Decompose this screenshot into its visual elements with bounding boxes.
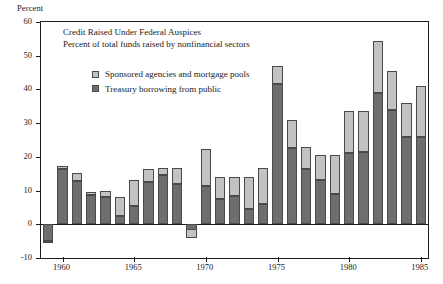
bar-segment-treasury	[172, 184, 182, 224]
y-axis-tick	[36, 258, 41, 259]
y-axis-tick-label: 30	[6, 118, 32, 127]
bar-segment-treasury	[258, 204, 268, 224]
bar-segment-treasury	[287, 148, 297, 224]
legend-swatch-icon-sponsored	[92, 71, 99, 78]
y-axis-tick-label: -10	[6, 253, 32, 262]
y-axis-unit-label: Percent	[17, 3, 43, 13]
legend-label-treasury: Treasury borrowing from public	[105, 82, 221, 97]
bar-group	[43, 22, 53, 258]
y-axis-tick-label: 10	[6, 186, 32, 195]
y-axis-tick	[36, 56, 41, 57]
x-axis-tick-label: 1960	[42, 263, 82, 272]
bar-segment-treasury	[129, 206, 139, 225]
plot-area	[41, 22, 428, 258]
bar-group	[258, 22, 268, 258]
bar-group	[86, 22, 96, 258]
bar-group	[201, 22, 211, 258]
y-axis-tick	[36, 22, 41, 23]
bar-segment-sponsored	[373, 41, 383, 93]
bar-segment-sponsored	[186, 229, 196, 237]
bar-segment-treasury	[143, 182, 153, 224]
bar-group	[287, 22, 297, 258]
chart-legend: Sponsored agencies and mortgage pools Tr…	[92, 67, 249, 96]
bar-group	[387, 22, 397, 258]
bar-segment-treasury	[57, 169, 67, 225]
y-axis-tick	[36, 191, 41, 192]
bar-segment-sponsored	[258, 168, 268, 204]
bar-group	[57, 22, 67, 258]
bar-segment-treasury	[115, 216, 125, 224]
bar-segment-treasury	[301, 169, 311, 225]
y-axis-tick-label: 20	[6, 152, 32, 161]
bar-segment-treasury	[43, 224, 53, 241]
bar-group	[100, 22, 110, 258]
bar-group	[72, 22, 82, 258]
bar-segment-treasury	[330, 194, 340, 224]
bar-group	[272, 22, 282, 258]
bar-segment-sponsored	[401, 103, 411, 137]
bar-group	[215, 22, 225, 258]
legend-label-sponsored: Sponsored agencies and mortgage pools	[105, 67, 249, 82]
legend-item-treasury: Treasury borrowing from public	[92, 82, 249, 97]
bar-segment-treasury	[387, 110, 397, 225]
bar-group	[373, 22, 383, 258]
bar-segment-sponsored	[215, 177, 225, 199]
bar-segment-treasury	[272, 84, 282, 224]
bar-segment-treasury	[86, 195, 96, 225]
bar-segment-treasury	[373, 93, 383, 224]
bar-group	[330, 22, 340, 258]
bar-segment-sponsored	[143, 169, 153, 182]
bar-segment-treasury	[244, 209, 254, 224]
bar-group	[301, 22, 311, 258]
legend-swatch-icon-treasury	[92, 85, 99, 92]
bar-segment-sponsored	[100, 191, 110, 197]
chart-title-block: Credit Raised Under Federal Auspices Per…	[63, 27, 250, 50]
bar-segment-sponsored	[43, 241, 53, 243]
x-axis-tick-label: 1985	[400, 263, 440, 272]
bar-group	[401, 22, 411, 258]
bar-segment-treasury	[215, 199, 225, 224]
bar-segment-sponsored	[330, 155, 340, 194]
bar-segment-sponsored	[387, 71, 397, 110]
bar-segment-sponsored	[201, 149, 211, 185]
bar-segment-sponsored	[416, 86, 426, 137]
bar-segment-treasury	[401, 137, 411, 225]
bar-group	[143, 22, 153, 258]
bar-segment-sponsored	[272, 66, 282, 85]
bar-segment-sponsored	[287, 120, 297, 149]
y-axis-tick	[36, 123, 41, 124]
bar-group	[358, 22, 368, 258]
y-axis-tick-label: 50	[6, 51, 32, 60]
bar-segment-sponsored	[244, 177, 254, 209]
bar-segment-treasury	[201, 186, 211, 225]
y-axis-tick	[36, 157, 41, 158]
bar-group	[344, 22, 354, 258]
bar-segment-sponsored	[115, 197, 125, 216]
plot-frame	[40, 21, 429, 259]
y-axis-tick-label: 0	[6, 219, 32, 228]
x-axis-tick-label: 1980	[328, 263, 368, 272]
bar-segment-sponsored	[301, 147, 311, 169]
bar-group	[186, 22, 196, 258]
chart-subtitle: Percent of total funds raised by nonfina…	[63, 39, 250, 51]
bar-segment-sponsored	[129, 180, 139, 205]
bar-segment-treasury	[158, 175, 168, 224]
bar-segment-treasury	[229, 196, 239, 225]
x-axis-tick-label: 1965	[113, 263, 153, 272]
bar-segment-sponsored	[229, 177, 239, 196]
bar-segment-treasury	[344, 153, 354, 224]
bar-segment-treasury	[416, 137, 426, 225]
bar-group	[315, 22, 325, 258]
bar-group	[129, 22, 139, 258]
bar-group	[158, 22, 168, 258]
y-axis-tick-label: 40	[6, 84, 32, 93]
bar-segment-sponsored	[358, 111, 368, 151]
bar-segment-sponsored	[315, 155, 325, 180]
chart-figure: Percent Credit Raised Under Federal Ausp…	[0, 0, 443, 284]
bar-segment-sponsored	[172, 168, 182, 184]
bar-segment-treasury	[100, 197, 110, 224]
x-axis-tick-label: 1975	[257, 263, 297, 272]
chart-title: Credit Raised Under Federal Auspices	[63, 27, 250, 39]
bar-group	[172, 22, 182, 258]
bar-segment-treasury	[72, 181, 82, 224]
